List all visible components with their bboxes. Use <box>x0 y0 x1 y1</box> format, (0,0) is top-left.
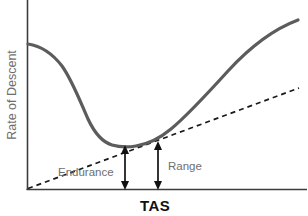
x-axis-title: TAS <box>140 197 170 214</box>
y-axis-title: Rate of Descent <box>5 50 19 140</box>
range-label: Range <box>168 160 202 172</box>
chart-plot-area: Endurance Range TAS Rate of Descent <box>0 0 308 216</box>
endurance-arrow-head-down <box>121 181 129 190</box>
range-arrow-head-down <box>154 181 162 190</box>
chart-figure: Endurance Range TAS Rate of Descent <box>0 0 308 216</box>
range-arrow-head-up <box>154 141 162 150</box>
rate-of-descent-curve <box>28 20 298 147</box>
endurance-label: Endurance <box>58 166 114 178</box>
